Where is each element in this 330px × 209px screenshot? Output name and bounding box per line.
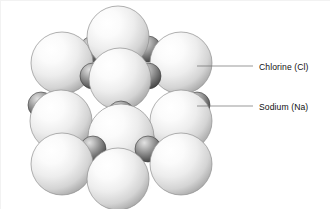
chlorine-label: Chlorine (Cl) xyxy=(259,62,309,72)
chlorine-atom xyxy=(31,133,93,195)
chlorine-atom xyxy=(87,148,149,209)
chlorine-atom xyxy=(89,48,151,110)
chlorine-atom-labeled xyxy=(150,32,212,94)
nacl-lattice-diagram: Chlorine (Cl) Sodium (Na) xyxy=(1,1,330,209)
figure-container: Chlorine (Cl) Sodium (Na) xyxy=(0,0,330,209)
chlorine-atom xyxy=(150,133,212,195)
sodium-label: Sodium (Na) xyxy=(259,102,308,112)
